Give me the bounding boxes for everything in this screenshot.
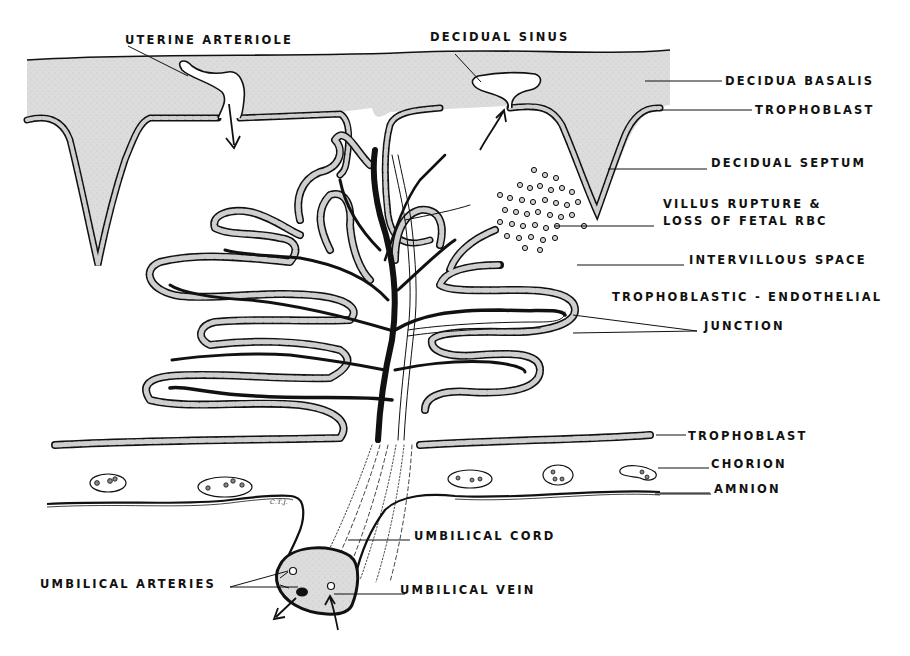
umbilical-cord-section — [274, 548, 358, 630]
label-villus-rupture-2: LOSS OF FETAL RBC — [663, 214, 828, 228]
label-uterine-arteriole: UTERINE ARTERIOLE — [125, 33, 293, 47]
label-amnion: AMNION — [714, 482, 781, 496]
label-junction: JUNCTION — [704, 319, 785, 333]
label-chorion: CHORION — [711, 457, 787, 471]
artist-initials: C.T.J. — [270, 498, 288, 505]
label-decidual-septum: DECIDUAL SEPTUM — [711, 156, 866, 170]
label-trophoblastic-endothelial: TROPHOBLASTIC - ENDOTHELIAL — [612, 290, 882, 304]
label-villus-rupture-1: VILLUS RUPTURE & — [663, 197, 822, 211]
figure-caption-clipped — [60, 640, 910, 656]
placenta-diagram: C.T.J. UTERINE ARTERIOLE DECIDUAL SINUS … — [0, 0, 910, 656]
villous-tree — [55, 135, 650, 582]
label-intervillous-space: INTERVILLOUS SPACE — [689, 253, 867, 267]
label-umbilical-vein: UMBILICAL VEIN — [400, 583, 536, 597]
label-umbilical-arteries: UMBILICAL ARTERIES — [40, 577, 216, 591]
label-decidual-sinus: DECIDUAL SINUS — [430, 30, 570, 44]
label-umbilical-cord: UMBILICAL CORD — [414, 529, 556, 543]
label-trophoblast-bottom: TROPHOBLAST — [688, 429, 808, 443]
label-decidua-basalis: DECIDUA BASALIS — [725, 74, 874, 88]
sinus-flow-arrow — [480, 110, 506, 150]
fetal-rbc-cluster — [497, 167, 586, 252]
label-trophoblast-top: TROPHOBLAST — [755, 103, 875, 117]
